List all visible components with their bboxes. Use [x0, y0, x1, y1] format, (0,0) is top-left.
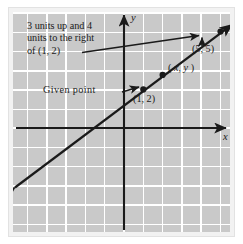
callout-line-1: 3 units up and 4 — [27, 20, 92, 31]
given-point-label: Given point — [43, 84, 96, 96]
point-label-x-y: ( x, y ) — [168, 62, 194, 74]
figure-container: 3 units up and 4units to the rightof (1,… — [0, 0, 243, 244]
callout-line-2: units to the right — [27, 32, 94, 43]
callout-line-3: of (1, 2) — [27, 45, 60, 56]
point-label-5-5: (5, 5) — [192, 43, 214, 55]
point-label-1-2: (1, 2) — [133, 93, 155, 105]
x-axis-label: x — [223, 131, 228, 144]
callout-text: 3 units up and 4units to the rightof (1,… — [27, 20, 94, 57]
y-axis-label: y — [131, 12, 136, 25]
paren-close: ) — [188, 62, 194, 73]
